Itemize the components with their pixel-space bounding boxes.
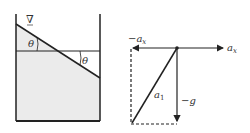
diagram-canvas: ∇ θ θ −ax ax a1 −g [0, 0, 250, 133]
angle-theta-right: θ [82, 55, 88, 66]
a1-vector [132, 48, 177, 123]
free-surface-symbol: ∇ [26, 13, 34, 26]
angle-theta-left: θ [28, 38, 34, 49]
vector-diagram [131, 46, 223, 124]
angle-arc-right [80, 51, 81, 65]
neg-g-label: −g [181, 95, 196, 106]
a1-label: a1 [154, 89, 164, 102]
tank [16, 14, 100, 121]
origin-dot [175, 46, 179, 50]
ax-label: ax [227, 42, 237, 55]
neg-ax-label: −ax [128, 33, 146, 46]
